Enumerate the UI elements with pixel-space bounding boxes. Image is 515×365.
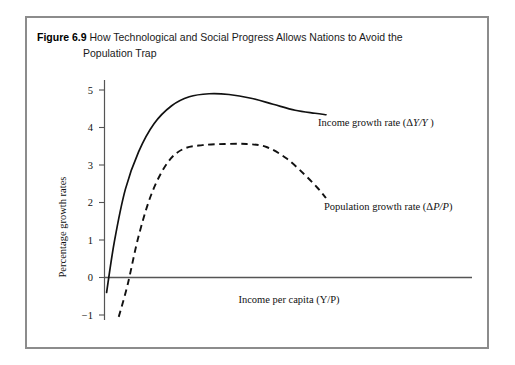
y-tick-label-neg1: −1 bbox=[82, 310, 93, 321]
income-label-italic: Y/Y bbox=[413, 117, 429, 128]
x-axis-title-italic: Y/P bbox=[320, 294, 337, 305]
x-axis-title-plain: Income per capita ( bbox=[238, 294, 320, 306]
income-label-tail: ) bbox=[428, 117, 435, 129]
y-tick-label-1: 1 bbox=[88, 235, 93, 246]
y-tick-label-5: 5 bbox=[88, 85, 93, 96]
population-label-plain: Population growth rate ( bbox=[324, 201, 427, 213]
y-tick-label-0: 0 bbox=[88, 272, 93, 283]
y-tick-label-2: 2 bbox=[88, 197, 93, 208]
income-growth-rate-curve-render bbox=[107, 94, 326, 293]
y-axis-ticks bbox=[99, 90, 105, 315]
figure-page: Figure 6.9 How Technological and Social … bbox=[0, 0, 515, 365]
y-tick-label-3: 3 bbox=[88, 160, 93, 171]
population-label-tail: ) bbox=[449, 201, 453, 213]
y-axis-title: Percentage growth rates bbox=[57, 177, 68, 278]
population-growth-rate-label: Population growth rate (ΔP/P) bbox=[324, 201, 453, 213]
income-growth-rate-label: Income growth rate (ΔY/Y ) bbox=[318, 117, 434, 129]
y-tick-label-4: 4 bbox=[88, 122, 94, 133]
x-axis-title: Income per capita (Y/P) bbox=[238, 294, 340, 306]
population-growth-rate-curve bbox=[119, 144, 326, 317]
x-axis-title-tail: ) bbox=[336, 294, 340, 306]
income-label-plain: Income growth rate ( bbox=[318, 117, 407, 129]
chart-plot-area: 5 4 3 2 1 0 −1 Percentage growth rates I… bbox=[0, 0, 515, 365]
population-label-italic: P/P bbox=[432, 201, 449, 212]
